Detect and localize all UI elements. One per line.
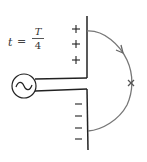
dipole-diagram: t = T 4 <box>0 0 147 162</box>
lower-antenna-plate <box>87 89 88 150</box>
ac-source-icon <box>12 74 36 98</box>
cross-marker-icon <box>128 80 134 86</box>
field-line-arc <box>87 31 132 131</box>
lower-wire <box>35 89 87 91</box>
positive-charges <box>72 25 80 64</box>
diagram-canvas <box>0 0 147 162</box>
negative-charges <box>75 104 82 139</box>
upper-wire <box>35 78 87 79</box>
